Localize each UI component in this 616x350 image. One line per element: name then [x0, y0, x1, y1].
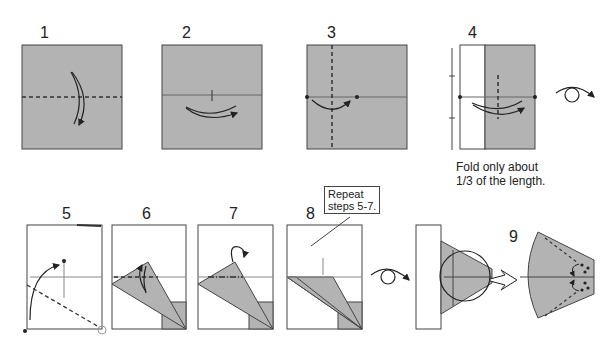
step-5-diagram [23, 225, 106, 334]
step-6-diagram [112, 225, 186, 329]
turn-over-icon [556, 87, 594, 102]
step-3-diagram [305, 45, 407, 149]
step-8-diagram [287, 217, 362, 329]
step-1-diagram [22, 45, 122, 149]
zoom-arrow-icon [490, 270, 517, 290]
step-2-diagram [162, 45, 262, 149]
step-7-diagram [198, 225, 273, 329]
step-9-diagram [416, 225, 594, 329]
enlarged-detail [528, 232, 594, 318]
diagram-canvas [0, 0, 616, 350]
step-4-diagram [449, 45, 537, 150]
turn-over-icon [371, 269, 409, 284]
